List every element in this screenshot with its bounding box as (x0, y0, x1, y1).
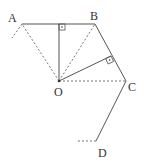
point-o (58, 80, 61, 83)
geometry-diagram: A B O C D (0, 0, 147, 168)
segment-bc (95, 24, 126, 81)
dashed-oa (22, 24, 59, 81)
dashed-a-extension (12, 24, 22, 38)
right-angle-marker-ab (59, 24, 65, 30)
perpendicular-o-bc (59, 56, 111, 81)
label-c: C (128, 80, 136, 94)
label-o: O (54, 85, 63, 99)
label-b: B (90, 9, 98, 23)
label-a: A (8, 11, 17, 25)
segment-cd (96, 81, 126, 141)
label-d: D (98, 146, 107, 160)
